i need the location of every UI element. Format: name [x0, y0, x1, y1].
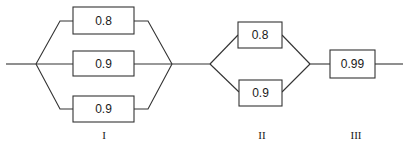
stage-2-component-1: 0.8: [238, 22, 282, 48]
component-reliability: 0.8: [252, 28, 269, 42]
component-reliability: 0.9: [95, 57, 112, 71]
component-reliability: 0.8: [95, 14, 112, 28]
stage-2-component-2: 0.9: [239, 80, 282, 106]
component-reliability: 0.99: [341, 57, 365, 71]
stage-1-component-1: 0.8: [73, 7, 134, 34]
component-reliability: 0.9: [95, 102, 112, 116]
component-reliability: 0.9: [252, 86, 269, 100]
stage-label-1: I: [102, 129, 106, 141]
stage-label-3: III: [351, 129, 362, 141]
stage-1-component-3: 0.9: [73, 96, 134, 122]
reliability-diagram: 0.8 0.9 0.9 0.8 0.9 0.99 I II III: [0, 0, 408, 142]
stage-1-component-2: 0.9: [73, 51, 134, 76]
stage-label-2: II: [258, 129, 266, 141]
stage-3-component-1: 0.99: [330, 50, 375, 78]
